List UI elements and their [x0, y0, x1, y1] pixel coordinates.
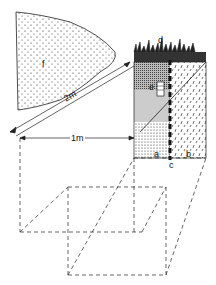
soil-layer-bottom [134, 122, 169, 158]
label-1m: 1m [70, 134, 85, 143]
sample-core [157, 82, 164, 96]
label-a: a [154, 150, 159, 159]
label-c: c [169, 161, 174, 170]
soil-side-face [169, 62, 206, 158]
diagram-canvas [0, 0, 216, 285]
pit-outline [20, 138, 206, 275]
grass-layer [134, 38, 206, 62]
label-e: e [149, 83, 154, 92]
label-f: f [42, 60, 45, 69]
label-b: b [186, 150, 191, 159]
label-d: d [158, 36, 163, 45]
